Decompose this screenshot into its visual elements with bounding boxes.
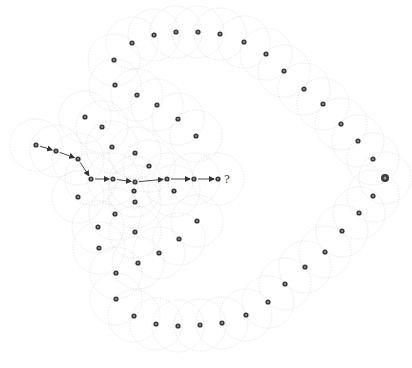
sensor-node bbox=[132, 229, 137, 234]
unknown-next-hop-label: ? bbox=[224, 173, 230, 186]
sensor-node bbox=[151, 32, 156, 37]
sensor-node bbox=[109, 144, 114, 149]
sensor-node bbox=[82, 114, 87, 119]
sensor-node bbox=[110, 176, 115, 181]
sensor-node bbox=[301, 86, 306, 91]
sensor-node bbox=[217, 31, 222, 36]
sensor-node bbox=[215, 176, 220, 181]
sensor-node bbox=[339, 228, 344, 233]
sensor-node bbox=[219, 320, 224, 325]
path-arrow bbox=[40, 146, 52, 150]
sensor-node bbox=[75, 194, 80, 199]
sensor-node bbox=[99, 124, 104, 129]
sensor-node bbox=[263, 51, 268, 56]
sensor-node bbox=[111, 57, 116, 62]
sensor-node bbox=[338, 121, 343, 126]
sensor-node bbox=[194, 218, 199, 223]
sensor-node bbox=[281, 68, 286, 73]
sensor-node bbox=[302, 264, 307, 269]
path-arrow bbox=[139, 179, 163, 181]
sensor-node bbox=[370, 156, 375, 161]
sensor-node bbox=[131, 313, 136, 318]
sensor-node bbox=[131, 188, 136, 193]
sensor-node bbox=[191, 176, 196, 181]
sensor-node bbox=[175, 116, 180, 121]
sensor-node bbox=[113, 270, 118, 275]
path-arrow bbox=[60, 152, 74, 157]
sensor-node bbox=[112, 82, 117, 87]
sensor-node bbox=[176, 236, 181, 241]
path-arrow bbox=[80, 162, 89, 175]
sensor-node bbox=[132, 199, 137, 204]
target-node bbox=[381, 174, 389, 182]
sensor-node bbox=[129, 40, 134, 45]
sensor-node bbox=[75, 156, 80, 161]
sensor-node bbox=[265, 299, 270, 304]
sensor-node bbox=[95, 224, 100, 229]
sensor-node bbox=[193, 133, 198, 138]
path-arrow bbox=[117, 180, 131, 182]
sensor-node bbox=[146, 163, 151, 168]
sensor-node bbox=[113, 296, 118, 301]
sensor-node bbox=[33, 142, 38, 147]
sensor-node bbox=[241, 39, 246, 44]
sensor-node bbox=[171, 188, 176, 193]
sensor-node bbox=[154, 102, 159, 107]
sensor-node bbox=[153, 321, 158, 326]
sensor-node bbox=[370, 193, 375, 198]
sensor-node bbox=[53, 148, 58, 153]
sensor-node bbox=[197, 322, 202, 327]
sensor-node bbox=[243, 312, 248, 317]
sensor-node bbox=[282, 281, 287, 286]
sensor-node bbox=[135, 260, 140, 265]
sensor-node bbox=[132, 150, 137, 155]
sensor-node bbox=[356, 210, 361, 215]
sensor-node bbox=[355, 138, 360, 143]
sensor-node bbox=[173, 29, 178, 34]
sensor-node bbox=[132, 179, 137, 184]
sensor-node bbox=[164, 176, 169, 181]
sensor-node bbox=[134, 92, 139, 97]
sensor-node bbox=[320, 101, 325, 106]
network-diagram: ? bbox=[0, 0, 412, 368]
sensor-node bbox=[156, 250, 161, 255]
sensor-node bbox=[112, 211, 117, 216]
sensor-node bbox=[175, 323, 180, 328]
sensor-node bbox=[195, 29, 200, 34]
sensor-node bbox=[88, 176, 93, 181]
sensor-node bbox=[96, 245, 101, 250]
sensor-node bbox=[322, 249, 327, 254]
diagram-canvas: ? bbox=[0, 0, 412, 368]
